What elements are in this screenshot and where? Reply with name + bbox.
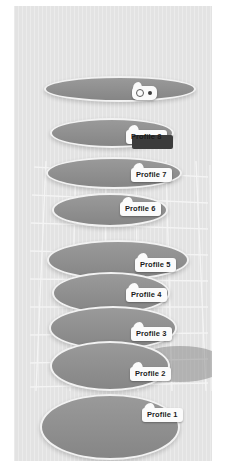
3d-scene-canvas[interactable]: Profile 8Profile 7Profile 6Profile 5Prof… bbox=[14, 6, 212, 461]
scene-texture-overlay bbox=[14, 6, 212, 461]
circle-outline-icon bbox=[136, 89, 144, 97]
profile-label[interactable]: Profile 3 bbox=[131, 327, 172, 341]
profile-ellipse[interactable] bbox=[40, 394, 180, 460]
profile-label[interactable]: Profile 4 bbox=[126, 288, 167, 302]
profile-label[interactable]: Profile 6 bbox=[120, 202, 161, 216]
profile-label[interactable]: Profile 5 bbox=[135, 258, 176, 272]
profile-label[interactable]: Profile 2 bbox=[130, 367, 171, 381]
profile-ellipse[interactable] bbox=[50, 341, 170, 391]
profile-label[interactable]: Profile 8 bbox=[126, 130, 167, 144]
profile-label[interactable]: Profile 7 bbox=[131, 168, 172, 182]
pointer-balloon[interactable] bbox=[132, 86, 157, 100]
profile-label[interactable]: Profile 1 bbox=[142, 408, 183, 422]
viewport: Profile 8Profile 7Profile 6Profile 5Prof… bbox=[0, 0, 225, 474]
dot-icon bbox=[148, 91, 152, 95]
profile-ellipse[interactable] bbox=[44, 76, 196, 102]
